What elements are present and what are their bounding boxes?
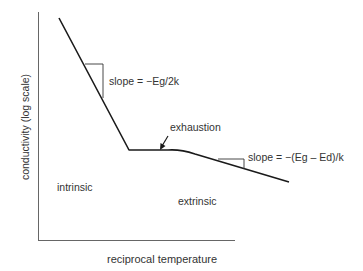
exhaustion-arrow: [160, 136, 168, 150]
y-axis-label: conductivity (log scale): [19, 74, 31, 180]
slope-triangle-intrinsic: [85, 64, 103, 98]
x-axis-label: reciprocal temperature: [107, 253, 217, 265]
slope-extrinsic-label: slope = −(Eg – Ed)/k: [248, 151, 344, 163]
intrinsic-label: intrinsic: [57, 181, 93, 193]
exhaustion-label: exhaustion: [170, 121, 221, 133]
slope-intrinsic-label: slope = −Eg/2k: [109, 75, 179, 87]
extrinsic-label: extrinsic: [178, 195, 217, 207]
diagram-canvas: [0, 0, 363, 271]
